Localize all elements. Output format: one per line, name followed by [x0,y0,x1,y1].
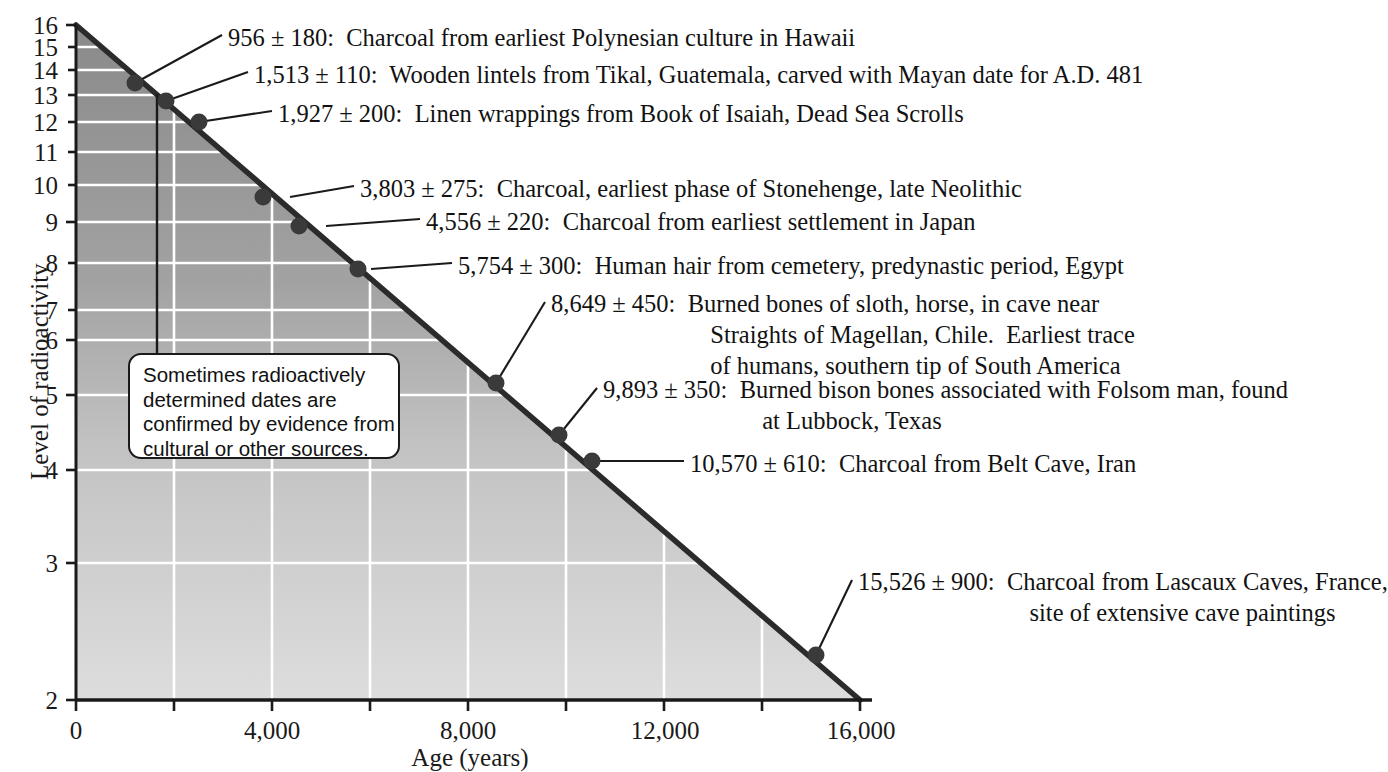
data-point [350,261,367,278]
x-tick-label-16000: 16,000 [796,718,926,743]
x-tick-label-0: 0 [46,718,106,743]
annotation-8649: 8,649 ± 450: Burned bones of sloth, hors… [551,288,1135,381]
data-point [488,375,505,392]
y-tick-label-3: 3 [18,551,58,576]
y-tick-label-9: 9 [18,210,58,235]
y-tick-label-2: 2 [18,688,58,713]
y-tick-label-14: 14 [18,58,58,83]
y-tick-label-13: 13 [18,83,58,108]
x-tick-label-12000: 12,000 [600,718,730,743]
y-tick-label-10: 10 [18,173,58,198]
data-point [808,647,825,664]
annotation-3803: 3,803 ± 275: Charcoal, earliest phase of… [360,173,1022,204]
annotation-10570: 10,570 ± 610: Charcoal from Belt Cave, I… [690,448,1136,479]
y-tick-label-12: 12 [18,110,58,135]
annotation-15526: 15,526 ± 900: Charcoal from Lascaux Cave… [858,566,1388,628]
y-axis-title: Level of radioactivity [26,263,54,480]
x-tick-label-4000: 4,000 [212,718,332,743]
data-point [158,93,175,110]
annotation-956: 956 ± 180: Charcoal from earliest Polyne… [228,22,855,53]
x-tick-label-8000: 8,000 [408,718,528,743]
data-point [127,75,144,92]
data-point [584,453,601,470]
data-point [291,218,308,235]
data-point [191,114,208,131]
annotation-5754: 5,754 ± 300: Human hair from cemetery, p… [458,250,1124,281]
data-point [255,189,272,206]
x-axis-title: Age (years) [0,744,940,772]
data-point [551,427,568,444]
y-tick-label-11: 11 [18,140,58,165]
annotation-1927: 1,927 ± 200: Linen wrappings from Book o… [278,98,964,129]
callout-box: Sometimes radioactively determined dates… [128,353,400,459]
annotation-9893: 9,893 ± 350: Burned bison bones associat… [603,374,1288,436]
annotation-4556: 4,556 ± 220: Charcoal from earliest sett… [426,206,976,237]
annotation-1513: 1,513 ± 110: Wooden lintels from Tikal, … [254,59,1143,90]
